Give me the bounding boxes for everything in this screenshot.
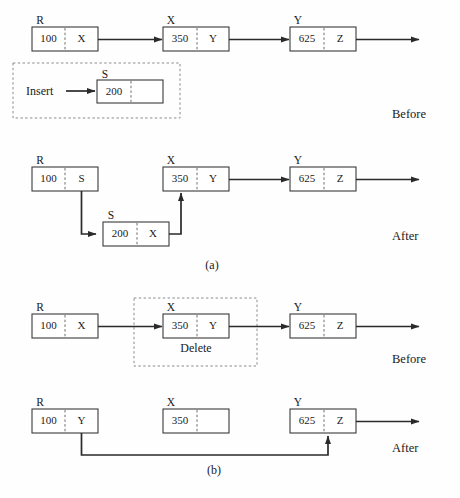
node-pointer-value: Y <box>209 319 217 331</box>
node-data-value: 100 <box>40 414 57 426</box>
node-x-b-before: X 350 Y <box>163 301 229 338</box>
node-pointer-value: Z <box>337 32 344 44</box>
node-name-label: Y <box>294 396 303 408</box>
node-pointer-value: Z <box>337 172 344 184</box>
stage-label-after-a: After <box>392 229 419 243</box>
node-data-value: 100 <box>40 32 57 44</box>
node-y-a-before: Y 625 Z <box>290 14 356 51</box>
node-name-label: R <box>36 396 44 408</box>
node-name-label: Y <box>294 154 303 166</box>
node-data-value: 625 <box>299 319 316 331</box>
node-data-value: 350 <box>172 32 189 44</box>
node-data-value: 350 <box>172 319 189 331</box>
diagram-canvas: R 100 X X 350 Y Y 625 Z <box>0 0 460 498</box>
node-pointer-value: X <box>78 319 86 331</box>
node-name-label: Y <box>294 301 303 313</box>
link-arrow-r-to-s <box>82 191 97 234</box>
node-name-label: R <box>36 301 44 313</box>
node-x-b-after: X 350 <box>163 396 229 433</box>
node-pointer-value: Z <box>337 319 344 331</box>
stage-label-before-b: Before <box>392 352 426 366</box>
insert-panel: Insert S 200 <box>13 63 180 118</box>
node-name-label: X <box>167 301 176 313</box>
link-arrow-r-to-y-bypass <box>82 433 329 455</box>
node-name-label: R <box>36 154 44 166</box>
node-pointer-value: X <box>78 32 86 44</box>
node-name-label: Y <box>294 14 303 26</box>
node-r-a-before: R 100 X <box>32 14 98 51</box>
node-name-label: R <box>36 14 44 26</box>
row-a-before: R 100 X X 350 Y Y 625 Z <box>32 14 419 51</box>
stage-label-after-b: After <box>392 441 419 455</box>
row-a-after: R 100 S X 350 Y Y 625 <box>32 154 419 246</box>
delete-label: Delete <box>180 341 211 355</box>
subfigure-label-a: (a) <box>205 258 218 272</box>
subfigure-label-b: (b) <box>207 463 221 477</box>
node-data-value: 625 <box>299 172 316 184</box>
node-data-value: 350 <box>172 172 189 184</box>
node-y-a-after: Y 625 Z <box>290 154 356 191</box>
node-x-a-after: X 350 Y <box>163 154 229 191</box>
node-data-value: 625 <box>299 414 316 426</box>
node-data-value: 350 <box>172 414 189 426</box>
node-s-insert: S 200 <box>97 68 163 103</box>
node-pointer-value: Y <box>78 414 86 426</box>
node-pointer-value: X <box>149 227 157 239</box>
linked-list-figure: R 100 X X 350 Y Y 625 Z <box>0 0 460 498</box>
node-pointer-value: Z <box>337 414 344 426</box>
stage-label-before-a: Before <box>392 107 426 121</box>
node-s-a-after: S 200 X <box>103 209 169 246</box>
node-data-value: 200 <box>106 85 123 97</box>
node-data-value: 625 <box>299 32 316 44</box>
node-y-b-before: Y 625 Z <box>290 301 356 338</box>
node-name-label: X <box>167 396 176 408</box>
row-b-before: R 100 X X 350 Y Delete Y <box>32 298 419 366</box>
node-name-label: S <box>108 209 114 221</box>
node-pointer-value: Y <box>209 32 217 44</box>
insert-label: Insert <box>26 84 54 98</box>
node-name-label: X <box>167 14 176 26</box>
node-pointer-value: Y <box>209 172 217 184</box>
node-name-label: S <box>102 68 108 80</box>
row-b-after: R 100 Y X 350 Y 625 Z <box>32 396 419 455</box>
node-data-value: 100 <box>40 172 57 184</box>
node-r-b-after: R 100 Y <box>32 396 98 433</box>
node-data-value: 100 <box>40 319 57 331</box>
node-r-a-after: R 100 S <box>32 154 98 191</box>
node-y-b-after: Y 625 Z <box>290 396 356 433</box>
node-data-value: 200 <box>112 227 129 239</box>
node-r-b-before: R 100 X <box>32 301 98 338</box>
node-x-a-before: X 350 Y <box>163 14 229 51</box>
link-arrow-s-to-x <box>169 193 181 234</box>
node-pointer-value: S <box>78 172 84 184</box>
node-name-label: X <box>167 154 176 166</box>
